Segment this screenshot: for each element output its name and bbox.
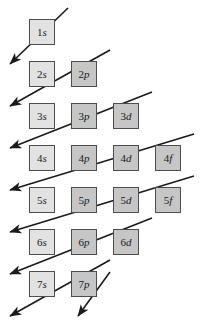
orbital-subshell-letter: f <box>169 153 172 164</box>
orbital-box-5f[interactable]: 5f <box>155 187 181 213</box>
orbital-subshell-letter: p <box>84 195 90 206</box>
orbital-box-4f[interactable]: 4f <box>155 145 181 171</box>
orbital-box-7p[interactable]: 7p <box>71 271 97 297</box>
orbital-box-3d[interactable]: 3d <box>113 103 139 129</box>
orbital-box-6p[interactable]: 6p <box>71 229 97 255</box>
orbital-subshell-letter: s <box>43 153 47 164</box>
orbital-subshell-letter: s <box>43 195 47 206</box>
orbital-subshell-letter: d <box>126 237 132 248</box>
aufbau-diagram: 1s2s2p3s3p3d4s4p4d4f5s5p5d5f6s6p6d7s7p <box>0 0 206 326</box>
orbital-box-3p[interactable]: 3p <box>71 103 97 129</box>
orbital-subshell-letter: d <box>126 195 132 206</box>
orbital-subshell-letter: p <box>84 237 90 248</box>
orbital-subshell-letter: f <box>169 195 172 206</box>
orbital-subshell-letter: p <box>84 111 90 122</box>
orbital-subshell-letter: p <box>84 69 90 80</box>
orbital-subshell-letter: d <box>126 153 132 164</box>
orbital-box-1s[interactable]: 1s <box>29 19 55 45</box>
orbital-subshell-letter: p <box>84 279 90 290</box>
orbital-subshell-letter: s <box>43 237 47 248</box>
orbital-box-6s[interactable]: 6s <box>29 229 55 255</box>
orbital-box-5d[interactable]: 5d <box>113 187 139 213</box>
orbital-box-2s[interactable]: 2s <box>29 61 55 87</box>
orbital-subshell-letter: s <box>43 279 47 290</box>
orbital-box-4d[interactable]: 4d <box>113 145 139 171</box>
orbital-box-4p[interactable]: 4p <box>71 145 97 171</box>
orbital-subshell-letter: s <box>43 111 47 122</box>
orbital-box-5p[interactable]: 5p <box>71 187 97 213</box>
orbital-subshell-letter: d <box>126 111 132 122</box>
orbital-box-4s[interactable]: 4s <box>29 145 55 171</box>
orbital-subshell-letter: p <box>84 153 90 164</box>
orbital-box-5s[interactable]: 5s <box>29 187 55 213</box>
orbital-box-2p[interactable]: 2p <box>71 61 97 87</box>
orbital-box-3s[interactable]: 3s <box>29 103 55 129</box>
orbital-box-7s[interactable]: 7s <box>29 271 55 297</box>
orbital-subshell-letter: s <box>43 27 47 38</box>
orbital-subshell-letter: s <box>43 69 47 80</box>
orbital-box-6d[interactable]: 6d <box>113 229 139 255</box>
